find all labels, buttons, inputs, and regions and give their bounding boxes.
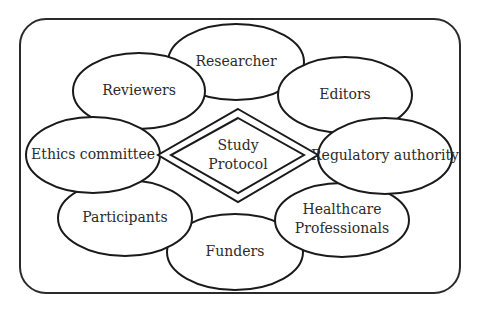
node-label: Editors (319, 86, 371, 102)
node-label: Participants (82, 209, 167, 225)
node-label: Researcher (195, 53, 276, 69)
node-ethics-committee: Ethics committee (26, 117, 160, 193)
node-label-line-2: Professionals (295, 220, 389, 236)
stakeholder-diagram: Researcher Reviewers Editors Funders Par… (0, 0, 479, 309)
node-label: Regulatory authority (311, 147, 459, 163)
node-label: Funders (206, 243, 265, 259)
center-label-line-1: Study (217, 137, 258, 153)
center-label-line-2: Protocol (208, 156, 268, 172)
node-label-line-1: Healthcare (302, 201, 381, 217)
node-label: Reviewers (102, 82, 176, 98)
node-label: Ethics committee (31, 146, 155, 162)
